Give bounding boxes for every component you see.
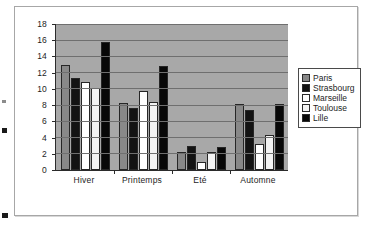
gridline	[56, 105, 288, 106]
bar-marseille-hiver	[81, 82, 90, 170]
gridline	[56, 153, 288, 154]
y-axis-tick-labels: 181614121086420	[29, 24, 47, 170]
y-axis-tick-mark	[52, 73, 56, 74]
bar-lille-printemps	[159, 66, 168, 170]
y-axis-tick-mark	[52, 154, 56, 155]
bar-strasbourg-et	[187, 146, 196, 170]
legend-item-label: Strasbourg	[313, 84, 355, 93]
gridline	[56, 72, 288, 73]
y-axis-tick-mark	[52, 24, 56, 25]
chart-frame: 181614121086420 HiverPrintempsEtéAutomne…	[14, 6, 358, 216]
y-axis-tick-label: 6	[31, 117, 47, 126]
bar-group	[172, 24, 230, 170]
y-axis-tick-label: 2	[31, 150, 47, 159]
plot-area	[55, 24, 288, 171]
x-axis-tick-label: Printemps	[113, 175, 171, 185]
bar-toulouse-printemps	[149, 102, 158, 170]
y-axis-tick-label: 16	[31, 36, 47, 45]
bar-groups	[56, 24, 288, 170]
legend-item-lille: Lille	[302, 114, 355, 123]
y-axis-tick-label: 14	[31, 52, 47, 61]
y-axis-tick-mark	[52, 56, 56, 57]
y-axis-tick-mark	[52, 89, 56, 90]
legend-item-marseille: Marseille	[302, 94, 355, 103]
y-axis-tick-label: 10	[31, 85, 47, 94]
bar-marseille-et	[197, 162, 206, 170]
scan-artifact-speck	[2, 100, 6, 103]
x-axis-tick-label: Automne	[229, 175, 287, 185]
bar-strasbourg-hiver	[71, 78, 80, 170]
gridline	[56, 56, 288, 57]
bar-paris-et	[177, 152, 186, 170]
bar-toulouse-et	[207, 152, 216, 170]
gridline	[56, 121, 288, 122]
legend-item-paris: Paris	[302, 74, 355, 83]
gridline	[56, 137, 288, 138]
gridline	[56, 88, 288, 89]
y-axis-tick-label: 0	[31, 166, 47, 175]
bar-group	[230, 24, 288, 170]
legend-item-label: Marseille	[313, 94, 347, 103]
legend-swatch-icon	[302, 94, 310, 102]
y-axis-tick-mark	[52, 121, 56, 122]
y-axis-tick-label: 18	[31, 20, 47, 29]
legend-swatch-icon	[302, 74, 310, 82]
x-axis-tick-mark	[172, 170, 173, 174]
scan-artifact-mark	[2, 128, 7, 133]
legend-item-toulouse: Toulouse	[302, 104, 355, 113]
legend-swatch-icon	[302, 104, 310, 112]
gridline	[56, 40, 288, 41]
y-axis-tick-label: 12	[31, 68, 47, 77]
x-axis-tick-mark	[230, 170, 231, 174]
y-axis-tick-mark	[52, 170, 56, 171]
bar-marseille-printemps	[139, 91, 148, 170]
legend-item-label: Toulouse	[313, 104, 347, 113]
x-axis-tick-labels: HiverPrintempsEtéAutomne	[55, 175, 287, 185]
y-axis-tick-mark	[52, 105, 56, 106]
bar-group	[56, 24, 114, 170]
bar-lille-hiver	[101, 42, 110, 170]
y-axis-tick-mark	[52, 138, 56, 139]
x-axis-tick-label: Hiver	[55, 175, 113, 185]
bar-group	[114, 24, 172, 170]
scan-artifact-mark	[2, 213, 8, 218]
bar-lille-et	[217, 147, 226, 170]
legend-swatch-icon	[302, 84, 310, 92]
bar-chart: 181614121086420 HiverPrintempsEtéAutomne…	[15, 7, 357, 215]
bar-toulouse-hiver	[91, 88, 100, 170]
y-axis-tick-label: 4	[31, 133, 47, 142]
bar-strasbourg-printemps	[129, 108, 138, 170]
legend-swatch-icon	[302, 114, 310, 122]
gridline	[56, 24, 288, 25]
x-axis-tick-label: Eté	[171, 175, 229, 185]
bar-strasbourg-automne	[245, 110, 254, 170]
legend-item-strasbourg: Strasbourg	[302, 84, 355, 93]
legend-item-label: Paris	[313, 74, 332, 83]
legend-item-label: Lille	[313, 114, 328, 123]
y-axis-tick-label: 8	[31, 101, 47, 110]
bar-marseille-automne	[255, 144, 264, 170]
y-axis-tick-mark	[52, 40, 56, 41]
x-axis-tick-mark	[114, 170, 115, 174]
chart-legend: ParisStrasbourgMarseilleToulouseLille	[298, 68, 361, 128]
